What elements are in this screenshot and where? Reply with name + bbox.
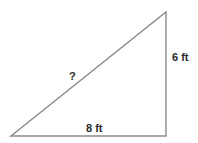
right-triangle-shape xyxy=(11,12,166,136)
triangle-diagram: ? 6 ft 8 ft xyxy=(0,0,198,143)
base-label: 8 ft xyxy=(86,122,103,134)
hypotenuse-label: ? xyxy=(69,70,76,82)
vertical-side-label: 6 ft xyxy=(172,51,189,63)
